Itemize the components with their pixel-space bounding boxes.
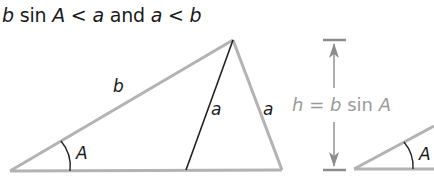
formula-A: A bbox=[379, 94, 391, 115]
formula-b: b bbox=[330, 94, 341, 115]
side-a-inner bbox=[186, 40, 233, 170]
formula-equals: = bbox=[309, 94, 324, 115]
label-angle-A: A bbox=[76, 145, 88, 162]
ssa-ambiguous-case-diagram: b sin A < a and a < b bbox=[0, 0, 434, 185]
main-triangle bbox=[10, 40, 282, 171]
angle-A-arc bbox=[61, 141, 70, 171]
label-side-a-inner: a bbox=[211, 101, 221, 118]
height-formula: h = b sin A bbox=[290, 96, 393, 114]
label-small-angle-A: A bbox=[419, 146, 431, 163]
diagram-graphics bbox=[0, 0, 434, 185]
base-side bbox=[10, 170, 282, 171]
side-b bbox=[10, 40, 233, 171]
side-a-outer bbox=[233, 40, 282, 170]
label-side-b: b bbox=[113, 78, 124, 95]
formula-h: h bbox=[292, 94, 303, 115]
formula-sin: sin bbox=[347, 94, 373, 115]
label-side-a-outer: a bbox=[263, 101, 273, 118]
small-angle-A-arc bbox=[404, 142, 413, 169]
